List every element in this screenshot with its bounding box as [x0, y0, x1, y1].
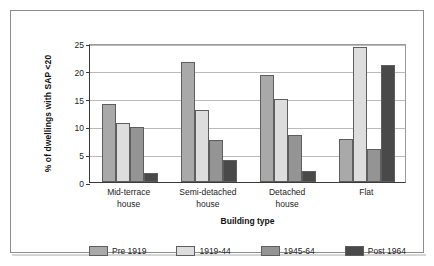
bar-group	[169, 45, 248, 182]
chart-legend: Pre 19191919-441945-64Post 1964	[89, 244, 406, 258]
x-axis-category-label-line: house	[248, 199, 327, 211]
bar	[339, 139, 353, 182]
x-axis-category-label: Mid-terracehouse	[89, 187, 168, 210]
bar	[288, 135, 302, 182]
bar	[381, 65, 395, 182]
y-tick-mark	[86, 184, 90, 185]
bar	[223, 160, 237, 182]
legend-swatch	[345, 246, 364, 256]
y-axis-title: % of dwellings with SAP <20	[41, 44, 55, 183]
legend-item[interactable]: Post 1964	[345, 246, 406, 256]
x-axis-category-label-line: Semi-detached	[168, 187, 247, 199]
legend-item[interactable]: 1919-44	[176, 246, 230, 256]
y-tick-label: 10	[75, 124, 84, 133]
legend-swatch	[176, 246, 195, 256]
legend-label: 1919-44	[199, 246, 230, 256]
y-tick-label: 25	[75, 41, 84, 50]
figure-frame: % of dwellings with SAP <20 0510152025 M…	[10, 10, 424, 253]
bar	[367, 149, 381, 182]
x-axis-title: Building type	[89, 216, 406, 226]
x-axis-category-label: Semi-detachedhouse	[168, 187, 247, 210]
bar	[209, 140, 223, 182]
y-tick-label: 20	[75, 69, 84, 78]
y-tick-label: 15	[75, 96, 84, 105]
x-axis-category-label-line: house	[89, 199, 168, 211]
bar-group	[328, 45, 407, 182]
x-axis-category-label-line: house	[168, 199, 247, 211]
legend-label: Pre 1919	[112, 246, 147, 256]
bar	[144, 173, 158, 182]
legend-swatch	[261, 246, 280, 256]
x-axis-category-label: Flat	[327, 187, 406, 199]
bar	[116, 123, 130, 182]
plot-area: 0510152025	[89, 44, 406, 183]
bar	[102, 104, 116, 182]
legend-item[interactable]: 1945-64	[261, 246, 315, 256]
bar	[181, 62, 195, 182]
bar	[274, 99, 288, 182]
x-axis-category-label-line: Mid-terrace	[89, 187, 168, 199]
x-axis-category-label-line: Flat	[327, 187, 406, 199]
bar	[195, 110, 209, 182]
bar	[353, 47, 367, 182]
x-axis-category-label: Detachedhouse	[248, 187, 327, 210]
y-tick-label: 5	[79, 152, 84, 161]
legend-item[interactable]: Pre 1919	[89, 246, 147, 256]
bar-series-layer	[90, 45, 405, 182]
bar	[260, 75, 274, 182]
bar	[302, 171, 316, 182]
x-axis-category-labels: Mid-terracehouseSemi-detachedhouseDetach…	[89, 187, 406, 215]
bar-group	[249, 45, 328, 182]
legend-label: 1945-64	[284, 246, 315, 256]
bar	[130, 127, 144, 182]
legend-swatch	[89, 246, 108, 256]
y-tick-label: 0	[79, 180, 84, 189]
legend-label: Post 1964	[368, 246, 406, 256]
bar-group	[90, 45, 169, 182]
x-axis-category-label-line: Detached	[248, 187, 327, 199]
